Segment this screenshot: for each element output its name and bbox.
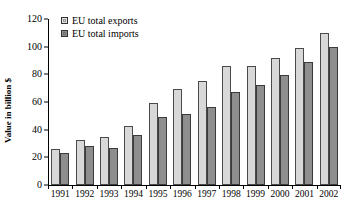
bar-imports-1994 [133,135,142,185]
bar-group [219,19,243,185]
bar-imports-1998 [231,92,240,185]
bar-group [121,19,145,185]
x-axis-label-1994: 1994 [121,188,145,200]
bar-imports-1993 [109,148,118,185]
bar-exports-2000 [271,58,280,185]
legend-label-exports: EU total exports [72,15,138,26]
x-axis-label-1995: 1995 [146,188,170,200]
legend: EU total exports EU total imports [61,14,139,40]
bar-imports-1999 [256,85,265,185]
x-axis-labels: 1991199219931994199519961997199819992000… [48,188,341,200]
bar-group [170,19,194,185]
bar-group [97,19,121,185]
x-axis-label-1993: 1993 [97,188,121,200]
bar-imports-1996 [182,114,191,185]
bar-exports-1998 [222,66,231,185]
bar-chart: Value in billion $ 020406080100120 19911… [0,0,349,221]
y-tick-label: 120 [27,14,42,24]
bar-group [243,19,267,185]
bar-group [72,19,96,185]
y-tick-label: 20 [32,152,42,162]
bar-group [48,19,72,185]
bar-exports-1993 [100,137,109,185]
x-axis-label-2001: 2001 [292,188,316,200]
x-axis-label-2000: 2000 [268,188,292,200]
bar-group [317,19,341,185]
x-axis-label-1992: 1992 [72,188,96,200]
bar-group [195,19,219,185]
bar-exports-1992 [76,140,85,185]
bar-exports-1994 [124,126,133,185]
bar-group [268,19,292,185]
legend-swatch-exports-icon [61,17,68,24]
bar-exports-2002 [320,33,329,185]
legend-item-exports: EU total exports [61,14,139,27]
legend-swatch-imports-icon [61,30,68,37]
y-tick-label: 80 [32,69,42,79]
x-axis-label-1997: 1997 [195,188,219,200]
bar-group [146,19,170,185]
bar-exports-1997 [198,81,207,185]
x-axis-label-1991: 1991 [48,188,72,200]
legend-label-imports: EU total imports [72,28,139,39]
plot-area: 020406080100120 [48,19,341,185]
bar-exports-1996 [173,89,182,185]
bar-imports-1997 [207,107,216,185]
bar-group [292,19,316,185]
bar-imports-1992 [85,146,94,185]
y-tick-label: 100 [27,42,42,52]
bar-imports-2001 [304,62,313,185]
bar-imports-1991 [60,153,69,186]
x-axis-label-1999: 1999 [243,188,267,200]
bar-exports-1995 [149,103,158,185]
bar-imports-2000 [280,75,289,185]
bar-exports-2001 [295,48,304,185]
legend-item-imports: EU total imports [61,27,139,40]
bar-imports-1995 [158,117,167,185]
y-axis-title: Value in billion $ [0,0,16,221]
x-axis-label-1996: 1996 [170,188,194,200]
x-axis-label-1998: 1998 [219,188,243,200]
bar-imports-2002 [329,47,338,185]
bar-groups [48,19,341,185]
y-tick-label: 60 [32,97,42,107]
y-tick-label: 0 [37,180,42,190]
bar-exports-1999 [247,66,256,185]
y-tick-label: 40 [32,125,42,135]
bar-exports-1991 [51,149,60,185]
x-axis-label-2002: 2002 [317,188,341,200]
